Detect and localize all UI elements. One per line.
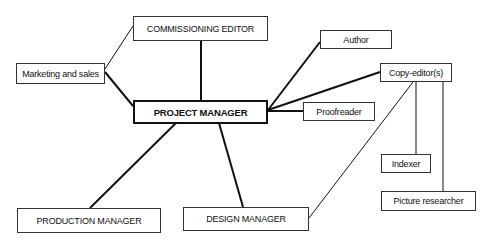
node-project-manager: PROJECT MANAGER [133, 100, 268, 124]
node-picture-researcher: Picture researcher [381, 191, 476, 211]
node-author: Author [320, 30, 392, 49]
edge-pm-author [268, 42, 320, 110]
edge-pm-design [219, 123, 243, 207]
node-proofreader: Proofreader [303, 102, 375, 121]
edge-pm-production [90, 123, 176, 208]
node-design-manager: DESIGN MANAGER [183, 207, 309, 231]
node-commissioning-editor: COMMISSIONING EDITOR [133, 16, 268, 41]
node-marketing-and-sales: Marketing and sales [16, 63, 105, 84]
node-indexer: Indexer [381, 154, 431, 173]
edge-marketing-commissioning [105, 26, 133, 69]
node-production-manager: PRODUCTION MANAGER [17, 208, 161, 233]
edge-pm-marketing [105, 72, 133, 106]
node-copy-editor: Copy-editor(s) [380, 63, 452, 82]
